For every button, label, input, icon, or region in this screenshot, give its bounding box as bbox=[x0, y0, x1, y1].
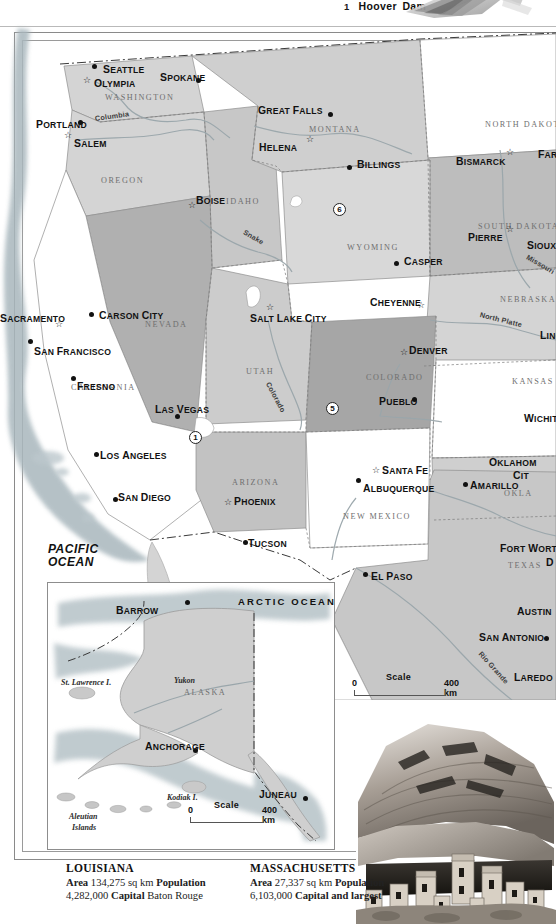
fact-population-value: 4,282,000 bbox=[66, 890, 108, 901]
fact-state-name: MASSACHUSETTS bbox=[250, 862, 422, 874]
city-dot-pueblo bbox=[412, 397, 417, 402]
inset-scale-line bbox=[190, 817, 264, 823]
capital-star-sacramento: ☆ bbox=[55, 320, 63, 329]
city-dot-las-vegas bbox=[175, 414, 180, 419]
main-scale-min: 0 bbox=[352, 678, 357, 688]
fact-body: Area 134,275 sq km Population 4,282,000 … bbox=[66, 876, 238, 903]
main-scale-max: 400 km bbox=[444, 678, 459, 698]
capital-star-santa-fe: ☆ bbox=[372, 466, 380, 475]
fact-louisiana: LOUISIANA Area 134,275 sq km Population … bbox=[66, 862, 238, 903]
city-dot-carson-city bbox=[89, 312, 94, 317]
city-dot-san-francisco bbox=[28, 339, 33, 344]
fact-state-name: LOUISIANA bbox=[66, 862, 238, 874]
capital-star-cheyenne: ☆ bbox=[417, 301, 425, 310]
fact-capital-label: Capital bbox=[111, 890, 145, 901]
pin-5[interactable]: 5 bbox=[326, 402, 339, 415]
inset-scale-max: 400 km bbox=[262, 805, 277, 825]
capital-star-pierre: ☆ bbox=[506, 225, 514, 234]
main-scale-title: Scale bbox=[386, 672, 411, 682]
capital-star-salt-lake-city: ☆ bbox=[266, 303, 274, 312]
fact-body: Area 27,337 sq km Population 6,103,000 C… bbox=[250, 876, 422, 903]
fact-massachusetts: MASSACHUSETTS Area 27,337 sq km Populati… bbox=[250, 862, 422, 903]
state-facts: LOUISIANA Area 134,275 sq km Population … bbox=[0, 862, 556, 924]
city-dot-san-diego bbox=[113, 497, 118, 502]
city-dot-los-angeles bbox=[94, 452, 99, 457]
capital-star-bismarck: ☆ bbox=[506, 148, 514, 157]
fact-area-value: 134,275 sq km bbox=[91, 877, 154, 888]
fact-population-label: Population bbox=[156, 877, 205, 888]
city-dot-el-paso bbox=[363, 572, 368, 577]
capital-star-denver: ☆ bbox=[400, 348, 408, 357]
pin-1-hoover-dam[interactable]: 1 bbox=[189, 431, 202, 444]
inset-city-dot-barrow bbox=[185, 600, 190, 605]
legend-number: 1 bbox=[344, 1, 349, 12]
city-dot-fresno bbox=[71, 376, 76, 381]
city-dot-billings bbox=[347, 165, 352, 170]
fact-area-value: 27,337 sq km bbox=[275, 877, 332, 888]
city-dot-great-falls bbox=[328, 112, 333, 117]
inset-city-dot-juneau bbox=[303, 796, 308, 801]
inset-city-dot-anchorage bbox=[193, 748, 198, 753]
city-dot-casper bbox=[394, 261, 399, 266]
capital-star-helena: ☆ bbox=[306, 135, 314, 144]
city-dot-spokane bbox=[196, 78, 201, 83]
capital-star-boise: ☆ bbox=[188, 201, 196, 210]
capital-star-salem: ☆ bbox=[64, 131, 72, 140]
city-dot-seattle bbox=[92, 64, 97, 69]
map-page: 1 Hoover Dam bbox=[0, 0, 556, 924]
capital-star-olympia: ☆ bbox=[83, 76, 91, 85]
fact-area-label: Area bbox=[66, 877, 88, 888]
city-dot-amarillo bbox=[463, 482, 468, 487]
inset-scale-title: Scale bbox=[214, 800, 239, 810]
main-scale-line bbox=[354, 690, 446, 696]
fact-capital-value: Baton Rouge bbox=[147, 890, 203, 901]
city-dot-tucson bbox=[243, 540, 248, 545]
fact-population-label: Population bbox=[335, 877, 384, 888]
fact-capital-label: Capital and largest bbox=[295, 890, 382, 901]
city-dot-albuquerque bbox=[356, 478, 361, 483]
city-dot-portland bbox=[78, 120, 83, 125]
capital-star-phoenix: ☆ bbox=[224, 498, 232, 507]
fact-population-value: 6,103,000 bbox=[250, 890, 292, 901]
fact-area-label: Area bbox=[250, 877, 272, 888]
inset-scale-min: 0 bbox=[188, 805, 193, 815]
hoover-dam-photo bbox=[404, 0, 536, 18]
city-dot-san-antonio bbox=[544, 636, 549, 641]
pin-6[interactable]: 6 bbox=[333, 203, 346, 216]
